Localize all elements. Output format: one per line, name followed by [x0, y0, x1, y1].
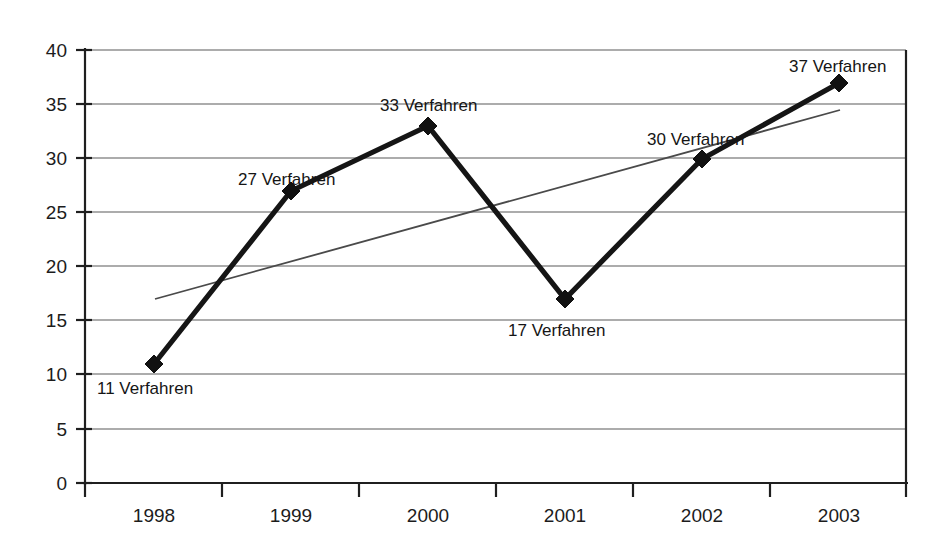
- x-axis-label-1998: 1998: [133, 505, 175, 526]
- data-label-2003: 37 Verfahren: [789, 57, 886, 76]
- y-axis-label-15: 15: [46, 310, 67, 331]
- y-axis-label-40: 40: [46, 40, 67, 61]
- x-axis-label-2003: 2003: [818, 505, 860, 526]
- x-axis-label-2001: 2001: [544, 505, 586, 526]
- y-axis-label-0: 0: [56, 473, 67, 494]
- y-axis-label-20: 20: [46, 256, 67, 277]
- y-axis-label-30: 30: [46, 148, 67, 169]
- chart-canvas: 40 35 30 25 20 15 10 5 0 1998 1999 2000 …: [0, 0, 943, 559]
- y-axis-label-25: 25: [46, 202, 67, 223]
- data-label-2001: 17 Verfahren: [508, 321, 605, 340]
- data-label-1999: 27 Verfahren: [238, 170, 335, 189]
- y-axis-label-35: 35: [46, 94, 67, 115]
- x-axis-label-2000: 2000: [407, 505, 449, 526]
- data-label-2000: 33 Verfahren: [380, 96, 477, 115]
- y-axis-label-5: 5: [56, 419, 67, 440]
- data-label-2002: 30 Verfahren: [647, 130, 744, 149]
- line-chart: 40 35 30 25 20 15 10 5 0 1998 1999 2000 …: [0, 0, 943, 559]
- data-label-1998: 11 Verfahren: [97, 379, 193, 398]
- x-axis-label-1999: 1999: [270, 505, 312, 526]
- x-axis-label-2002: 2002: [681, 505, 723, 526]
- y-axis-label-10: 10: [46, 364, 67, 385]
- x-axis-ticks: [85, 483, 906, 497]
